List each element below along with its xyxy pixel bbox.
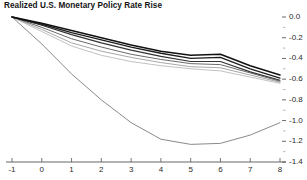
x-axis-tick-label: 3 <box>124 165 138 174</box>
x-axis-tick-label: 4 <box>154 165 168 174</box>
plot-area <box>0 0 307 180</box>
y-axis-tick-label: -0.2 <box>289 33 303 42</box>
chart-container: Realized U.S. Monetary Policy Rate Rise … <box>0 0 307 180</box>
y-axis-tick-label: -0.4 <box>289 53 303 62</box>
y-axis-tick-label: -0.8 <box>289 95 303 104</box>
x-axis-tick-label: 7 <box>243 165 257 174</box>
x-axis-tick-label: 5 <box>184 165 198 174</box>
x-axis-tick-label: -1 <box>5 165 19 174</box>
x-axis-tick-label: 1 <box>65 165 79 174</box>
data-line-series-1-dark <box>12 17 280 75</box>
y-axis-tick-label: -0.6 <box>289 74 303 83</box>
x-axis-tick-label: 0 <box>35 165 49 174</box>
y-axis-minor-tick-marks <box>283 27 286 151</box>
data-series-group <box>12 17 280 144</box>
y-axis-tick-label: -1.2 <box>289 136 303 145</box>
x-axis-tick-label: 2 <box>94 165 108 174</box>
y-axis-tick-label: -1.0 <box>289 116 303 125</box>
x-axis-tick-marks <box>12 158 280 162</box>
y-axis-tick-label: -1.4 <box>289 157 303 166</box>
y-axis-tick-label: 0.0 <box>289 12 300 21</box>
x-axis-tick-label: 8 <box>273 165 287 174</box>
x-axis-tick-label: 6 <box>213 165 227 174</box>
